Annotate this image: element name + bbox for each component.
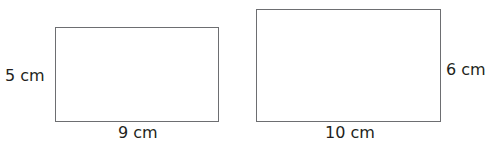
rectangle-b-width-label: 10 cm [325, 124, 375, 142]
rectangle-a-width-label: 9 cm [118, 124, 158, 142]
rectangle-b-height-label: 6 cm [446, 61, 486, 79]
rectangle-a-height-label: 5 cm [5, 67, 45, 85]
rectangle-b [256, 9, 441, 122]
rectangle-a [55, 27, 219, 122]
